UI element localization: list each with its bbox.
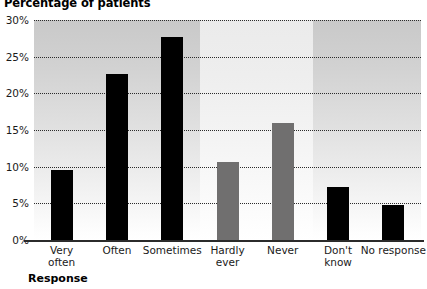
x-label-never: Never [255, 244, 310, 256]
y-tick-label: 15% [6, 125, 29, 136]
bar-sometimes[interactable] [161, 37, 183, 240]
x-axis-labels: Very often Often Sometimes Hardly ever N… [34, 244, 421, 278]
x-label-line: Very [34, 244, 89, 256]
x-label-line: Often [89, 244, 144, 256]
x-label-very-often: Very often [34, 244, 89, 268]
x-label-line: ever [200, 256, 255, 268]
y-axis: 30% 25% 20% 15% 10% 5% 0% [0, 20, 33, 241]
y-tick-label: 30% [6, 15, 29, 26]
plot-area [34, 20, 421, 240]
y-tick-label: 5% [12, 198, 29, 209]
x-label-line: Don't [310, 244, 365, 256]
bar-dont-know[interactable] [327, 187, 349, 240]
bar-slot-sometimes [145, 20, 200, 240]
bar-slot-hardly-ever [200, 20, 255, 240]
bar-slot-dont-know [310, 20, 365, 240]
bar-never[interactable] [272, 123, 294, 240]
x-label-sometimes: Sometimes [140, 244, 205, 256]
bar-hardly-ever[interactable] [217, 162, 239, 241]
y-tick-label: 20% [6, 88, 29, 99]
y-tick-label: 25% [6, 51, 29, 62]
x-label-dont-know: Don't know [310, 244, 365, 268]
y-tick-label: 10% [6, 161, 29, 172]
bar-slot-very-often [34, 20, 89, 240]
x-axis-line [24, 240, 424, 242]
x-label-line: often [34, 256, 89, 268]
x-label-line: Hardly [200, 244, 255, 256]
x-label-line: Sometimes [140, 244, 205, 256]
bar-series [34, 20, 421, 240]
bar-often[interactable] [106, 74, 128, 241]
x-label-no-response: No response [361, 244, 426, 256]
bar-slot-no-response [366, 20, 421, 240]
x-label-line: No response [361, 244, 426, 256]
x-label-line: know [310, 256, 365, 268]
bar-slot-often [89, 20, 144, 240]
bar-no-response[interactable] [382, 205, 404, 240]
bar-chart: Percentage of patients 30% 25% 20% 15% 1… [0, 0, 427, 289]
chart-title: Percentage of patients [4, 0, 150, 10]
x-label-often: Often [89, 244, 144, 256]
bar-slot-never [255, 20, 310, 240]
x-label-hardly-ever: Hardly ever [200, 244, 255, 268]
x-axis-title: Response [28, 272, 88, 285]
bar-very-often[interactable] [51, 170, 73, 240]
x-label-line: Never [255, 244, 310, 256]
